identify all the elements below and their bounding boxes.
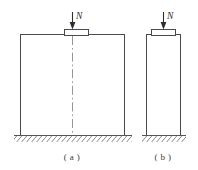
figure-background (0, 0, 198, 170)
subfigure-caption-a: ( a ) (64, 152, 81, 162)
bearing-plate-a (65, 30, 89, 36)
load-label-b: N (166, 11, 174, 21)
ground-support-b (142, 136, 186, 143)
bearing-plate-b (152, 30, 176, 36)
load-label-a: N (75, 11, 83, 21)
figure-container: N ( a ) N (0, 0, 198, 170)
ground-support-a (14, 136, 132, 143)
column-load-diagram: N ( a ) N (0, 0, 198, 170)
subfigure-caption-b: ( b ) (155, 152, 172, 162)
ground-hatch-b (142, 136, 186, 142)
ground-hatch-a (14, 136, 132, 142)
